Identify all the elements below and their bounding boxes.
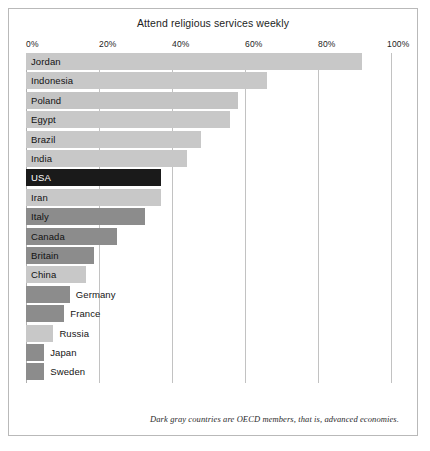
bar-japan[interactable] — [26, 344, 44, 361]
chart-title: Attend religious services weekly — [9, 17, 417, 29]
chart-figure: Attend religious services weekly 0%20%40… — [8, 8, 418, 436]
bar-row[interactable]: Canada — [26, 228, 391, 248]
bar-label-britain: Britain — [31, 247, 59, 264]
bar-row[interactable]: China — [26, 266, 391, 286]
tick-label-0: 0% — [26, 39, 39, 49]
bar-label-germany: Germany — [76, 286, 116, 303]
bar-label-poland: Poland — [31, 92, 61, 109]
bar-label-egypt: Egypt — [31, 111, 56, 128]
bar-label-brazil: Brazil — [31, 131, 55, 148]
bar-label-india: India — [31, 150, 52, 167]
bar-label-russia: Russia — [59, 325, 89, 342]
bar-label-italy: Italy — [31, 208, 49, 225]
gridline-100 — [391, 53, 392, 383]
bar-row[interactable]: Germany — [26, 286, 391, 306]
tick-label-80: 80% — [318, 39, 336, 49]
bar-label-indonesia: Indonesia — [31, 72, 73, 89]
bar-germany[interactable] — [26, 286, 70, 303]
bar-label-france: France — [70, 305, 100, 322]
bar-row[interactable]: Iran — [26, 189, 391, 209]
bar-row[interactable]: France — [26, 305, 391, 325]
bar-label-canada: Canada — [31, 228, 65, 245]
chart-footnote: Dark gray countries are OECD members, th… — [9, 414, 407, 424]
tick-label-100: 100% — [387, 39, 410, 49]
tick-label-40: 40% — [172, 39, 190, 49]
bar-row[interactable]: Sweden — [26, 363, 391, 383]
bar-label-usa: USA — [31, 169, 51, 186]
tick-label-20: 20% — [99, 39, 117, 49]
bar-label-sweden: Sweden — [50, 363, 85, 380]
bar-row[interactable]: India — [26, 150, 391, 170]
bar-row[interactable]: Egypt — [26, 111, 391, 131]
bar-row[interactable]: Indonesia — [26, 72, 391, 92]
bar-egypt[interactable] — [26, 111, 230, 128]
bar-rows: JordanIndonesiaPolandEgyptBrazilIndiaUSA… — [26, 53, 391, 383]
bar-row[interactable]: Brazil — [26, 131, 391, 151]
bar-france[interactable] — [26, 305, 64, 322]
bar-label-jordan: Jordan — [31, 53, 61, 70]
bar-row[interactable]: USA — [26, 169, 391, 189]
bar-label-japan: Japan — [50, 344, 76, 361]
x-axis-tick-labels: 0%20%40%60%80%100% — [26, 39, 391, 53]
tick-label-60: 60% — [245, 39, 263, 49]
bar-row[interactable]: Japan — [26, 344, 391, 364]
bar-label-iran: Iran — [31, 189, 48, 206]
bar-row[interactable]: Russia — [26, 325, 391, 345]
bar-row[interactable]: Jordan — [26, 53, 391, 73]
bar-row[interactable]: Britain — [26, 247, 391, 267]
plot-area: JordanIndonesiaPolandEgyptBrazilIndiaUSA… — [26, 53, 391, 383]
bar-row[interactable]: Italy — [26, 208, 391, 228]
bar-sweden[interactable] — [26, 363, 44, 380]
bar-jordan[interactable] — [26, 53, 362, 70]
bar-russia[interactable] — [26, 325, 53, 342]
bar-row[interactable]: Poland — [26, 92, 391, 112]
bar-label-china: China — [31, 266, 56, 283]
